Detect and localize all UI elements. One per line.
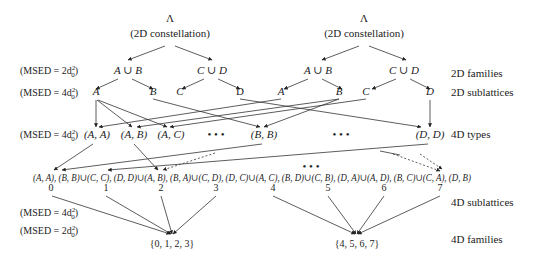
level-label-4d-sublattices: 4D sublattices xyxy=(451,196,514,208)
sublattice-right-c: C xyxy=(362,85,370,97)
sublattice-4d-list: (A, A), (B, B)∪(C, C), (D, D)∪(A, B), (B… xyxy=(33,172,472,184)
types-ellipsis-left: • • • xyxy=(207,128,224,140)
lattice-partition-diagram: Λ (2D constellation) A ∪ B C ∪ D A B C D… xyxy=(0,0,535,263)
sublattice-index-4: 4 xyxy=(271,182,276,193)
family-4d-0123: {0, 1, 2, 3} xyxy=(150,238,195,249)
family-right-ab: A ∪ B xyxy=(303,64,332,76)
svg-text:(MSED = 4d20): (MSED = 4d20) xyxy=(20,128,78,143)
msed-sublattices-4d: (MSED = 4d20) xyxy=(20,206,78,221)
family-4d-4567: {4, 5, 6, 7} xyxy=(335,238,380,249)
sublattice-index-7: 7 xyxy=(438,182,443,193)
level-label-2d-sublattices: 2D sublattices xyxy=(451,86,514,98)
msed-types-4d: (MSED = 4d20) xyxy=(20,128,78,143)
sublattice-right-d: D xyxy=(425,85,434,97)
root-symbol-right: Λ xyxy=(360,12,368,24)
root-caption-left: (2D constellation) xyxy=(130,27,210,40)
family-left-cd: C ∪ D xyxy=(197,64,227,76)
level-label-2d-families: 2D families xyxy=(451,67,503,79)
sublattice-right-a: A xyxy=(277,85,285,97)
svg-text:(MSED = 2d20): (MSED = 2d20) xyxy=(20,224,78,239)
sublattices-ellipsis: • • • xyxy=(302,160,319,172)
sublattice-right-b: B xyxy=(336,85,343,97)
sublattice-index-3: 3 xyxy=(214,182,219,193)
sublattice-index-5: 5 xyxy=(326,182,331,193)
sublattice-index-6: 6 xyxy=(382,182,387,193)
level-label-4d-types: 4D types xyxy=(451,128,490,140)
svg-text:(MSED = 4d20): (MSED = 4d20) xyxy=(20,206,78,221)
svg-text:(MSED = 4d20): (MSED = 4d20) xyxy=(20,86,78,101)
msed-sublattices-2d: (MSED = 4d20) xyxy=(20,86,78,101)
type-bb: (B, B) xyxy=(251,128,278,141)
type-aa: (A, A) xyxy=(84,128,110,141)
sublattice-index-2: 2 xyxy=(159,182,164,193)
root-symbol-left: Λ xyxy=(166,12,174,24)
family-left-ab: A ∪ B xyxy=(113,64,142,76)
svg-text:(MSED = 2d20): (MSED = 2d20) xyxy=(20,64,78,79)
family-right-cd: C ∪ D xyxy=(389,64,419,76)
type-dd: (D, D) xyxy=(416,128,445,141)
sublattice-index-0: 0 xyxy=(49,182,54,193)
type-ac: (A, C) xyxy=(158,128,185,141)
sublattice-left-d: D xyxy=(236,85,244,97)
sublattice-left-c: C xyxy=(176,85,184,97)
sublattice-left-b: B xyxy=(150,85,157,97)
sublattice-index-1: 1 xyxy=(104,182,109,193)
root-caption-right: (2D constellation) xyxy=(324,27,404,40)
msed-families-4d: (MSED = 2d20) xyxy=(20,224,78,239)
type-ab: (A, B) xyxy=(121,128,148,141)
msed-families-2d: (MSED = 2d20) xyxy=(20,64,78,79)
level-label-4d-families: 4D families xyxy=(451,233,503,245)
types-ellipsis-right: • • • xyxy=(332,128,349,140)
sublattice-left-a: A xyxy=(92,85,100,97)
